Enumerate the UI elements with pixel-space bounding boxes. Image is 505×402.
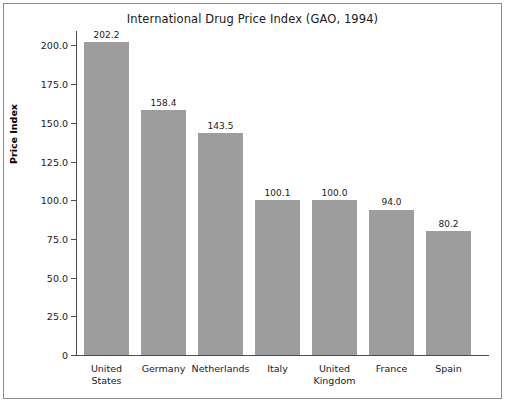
bar-italy[interactable]	[255, 200, 300, 355]
y-tick-label-2: 50.0	[47, 272, 68, 283]
y-tick-label-6: 150.0	[41, 117, 68, 128]
chart-screenshot: International Drug Price Index (GAO, 199…	[0, 0, 505, 402]
y-tick-label-0: 0	[62, 350, 68, 361]
bar-value-italy: 100.1	[265, 188, 291, 198]
bar-value-united-states: 202.2	[94, 30, 120, 40]
bar-france[interactable]	[369, 210, 414, 355]
y-tick-1	[71, 316, 76, 317]
bar-value-france: 94.0	[381, 197, 401, 207]
y-tick-label-8: 200.0	[41, 40, 68, 51]
bar-united-kingdom[interactable]	[312, 200, 357, 355]
y-tick-5	[71, 162, 76, 163]
y-tick-3	[71, 239, 76, 240]
y-axis-line	[76, 31, 77, 356]
bar-spain[interactable]	[426, 231, 471, 355]
y-tick-label-5: 125.0	[41, 156, 68, 167]
y-tick-label-7: 175.0	[41, 79, 68, 90]
bar-value-germany: 158.4	[151, 98, 177, 108]
x-tick-label-italy: Italy	[267, 363, 288, 375]
x-tick-label-germany: Germany	[142, 363, 186, 375]
y-tick-2	[71, 278, 76, 279]
y-tick-0	[71, 355, 76, 356]
y-tick-7	[71, 84, 76, 85]
plot-area: 0 25.0 50.0 75.0 100.0 125.0 150.0 175.0…	[76, 31, 489, 356]
bar-value-spain: 80.2	[438, 219, 458, 229]
bar-united-states[interactable]	[84, 42, 129, 355]
y-tick-8	[71, 45, 76, 46]
y-tick-4	[71, 200, 76, 201]
bar-netherlands[interactable]	[198, 133, 243, 355]
y-tick-label-4: 100.0	[41, 195, 68, 206]
bar-germany[interactable]	[141, 110, 186, 355]
chart-title: International Drug Price Index (GAO, 199…	[4, 12, 501, 26]
x-axis-line	[76, 355, 489, 356]
x-tick-label-spain: Spain	[435, 363, 462, 375]
x-tick-label-netherlands: Netherlands	[192, 363, 250, 375]
chart-frame: International Drug Price Index (GAO, 199…	[3, 3, 502, 399]
y-tick-6	[71, 123, 76, 124]
x-tick-label-united-kingdom: United Kingdom	[313, 363, 355, 387]
y-axis-label: Price Index	[8, 104, 19, 164]
x-tick-label-france: France	[376, 363, 408, 375]
y-tick-label-1: 25.0	[47, 311, 68, 322]
y-tick-label-3: 75.0	[47, 233, 68, 244]
x-tick-label-united-states: United States	[91, 363, 122, 387]
bar-value-united-kingdom: 100.0	[322, 188, 348, 198]
bar-value-netherlands: 143.5	[208, 121, 234, 131]
